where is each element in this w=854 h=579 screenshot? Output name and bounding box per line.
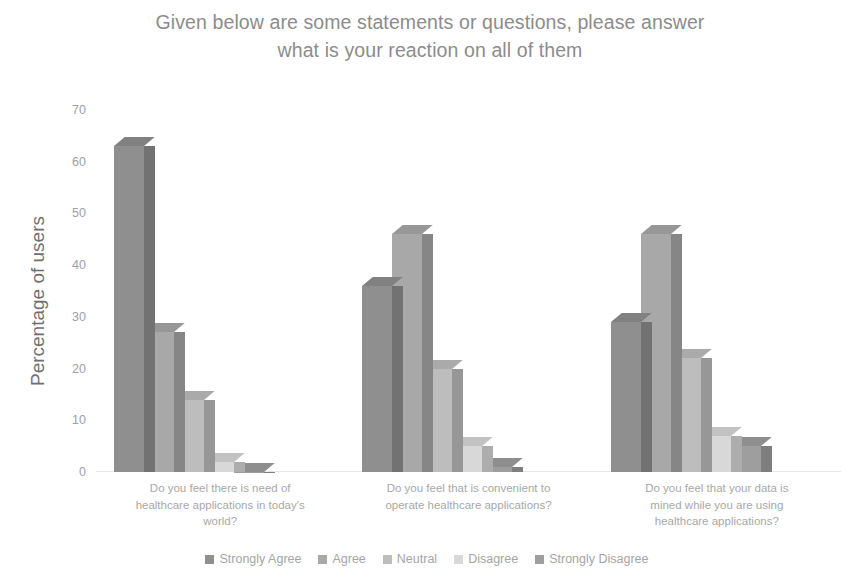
bar-group bbox=[114, 110, 264, 472]
bar-side-face bbox=[641, 322, 652, 472]
bar-top-face bbox=[114, 137, 155, 146]
bar-group bbox=[362, 110, 512, 472]
y-axis-tick-label: 10 bbox=[46, 413, 86, 427]
legend-item[interactable]: Agree bbox=[318, 552, 365, 566]
chart-title: Given below are some statements or quest… bbox=[90, 8, 770, 64]
y-axis-tick-label: 40 bbox=[46, 258, 86, 272]
legend-label: Neutral bbox=[397, 552, 437, 566]
bar-group bbox=[611, 110, 761, 472]
bar-front-face bbox=[362, 286, 392, 472]
legend-label: Agree bbox=[332, 552, 365, 566]
bar-side-face bbox=[422, 234, 433, 472]
legend-label: Strongly Agree bbox=[219, 552, 301, 566]
legend-swatch-icon bbox=[535, 555, 544, 564]
legend-label: Disagree bbox=[468, 552, 518, 566]
bar-side-face bbox=[264, 472, 275, 473]
bar[interactable] bbox=[611, 322, 641, 472]
bar-side-face bbox=[761, 446, 772, 472]
category-label: Do you feel that your data is mined whil… bbox=[575, 480, 854, 530]
y-axis-tick-label: 70 bbox=[46, 103, 86, 117]
bar-side-face bbox=[512, 467, 523, 472]
legend-swatch-icon bbox=[318, 555, 327, 564]
legend-swatch-icon bbox=[205, 555, 214, 564]
legend-item[interactable]: Neutral bbox=[383, 552, 437, 566]
y-axis-tick-label: 20 bbox=[46, 362, 86, 376]
legend-item[interactable]: Strongly Agree bbox=[205, 552, 301, 566]
y-axis-tick-label: 0 bbox=[46, 465, 86, 479]
bar-front-face bbox=[114, 146, 144, 472]
bar-side-face bbox=[701, 358, 712, 472]
chart-legend: Strongly AgreeAgreeNeutralDisagreeStrong… bbox=[0, 552, 854, 566]
y-axis-tick-label: 60 bbox=[46, 155, 86, 169]
bar[interactable] bbox=[114, 146, 144, 472]
bar-side-face bbox=[731, 436, 742, 472]
bar-top-face bbox=[641, 225, 682, 234]
bar-side-face bbox=[452, 369, 463, 472]
bar-side-face bbox=[234, 462, 245, 472]
bar-side-face bbox=[174, 332, 185, 472]
bar[interactable] bbox=[362, 286, 392, 472]
legend-swatch-icon bbox=[454, 555, 463, 564]
legend-item[interactable]: Disagree bbox=[454, 552, 518, 566]
y-axis-tick-label: 30 bbox=[46, 310, 86, 324]
plot-area: 010203040506070 bbox=[96, 110, 841, 472]
legend-swatch-icon bbox=[383, 555, 392, 564]
y-axis-tick-label: 50 bbox=[46, 206, 86, 220]
bar-front-face bbox=[611, 322, 641, 472]
category-label: Do you feel there is need of healthcare … bbox=[78, 480, 362, 530]
bar-side-face bbox=[204, 400, 215, 472]
legend-label: Strongly Disagree bbox=[549, 552, 648, 566]
bar-side-face bbox=[144, 146, 155, 472]
bar-side-face bbox=[671, 234, 682, 472]
category-label: Do you feel that is convenient to operat… bbox=[326, 480, 610, 513]
bar-top-face bbox=[392, 225, 433, 234]
legend-item[interactable]: Strongly Disagree bbox=[535, 552, 648, 566]
bar-side-face bbox=[482, 446, 493, 472]
bar-side-face bbox=[392, 286, 403, 472]
